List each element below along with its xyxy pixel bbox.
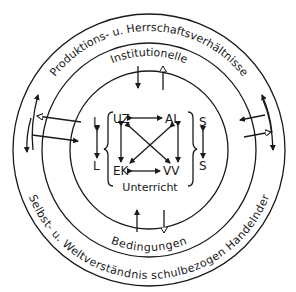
core-label-al: AL	[165, 112, 180, 126]
inner-ring	[70, 71, 228, 229]
middle-ring-top-label: Institutionelle	[108, 46, 189, 66]
core-title-unterricht: Unterricht	[122, 181, 178, 194]
core-label-s-top: S	[199, 115, 207, 129]
core-label-l-bottom: L	[93, 159, 100, 173]
core-label-ek: EK	[113, 164, 130, 178]
core-label-uz: UZ	[113, 112, 130, 126]
outer-ring-bottom-label: Selbst- u. Weltverständnis schulbezogen …	[26, 192, 272, 282]
arrow-right-outward-open	[244, 132, 271, 137]
right-brace	[188, 112, 197, 186]
left-brace	[104, 112, 113, 186]
middle-ring-bottom-label: Bedingungen	[110, 234, 189, 254]
core-label-l-top: L	[93, 115, 100, 129]
arrow-left-curve-down	[27, 118, 31, 152]
middle-ring	[42, 43, 256, 257]
core-label-vv: VV	[163, 164, 180, 178]
arrow-right-inward	[240, 115, 265, 120]
core-label-s-bottom: S	[199, 159, 207, 173]
arrow-left-outward-open	[37, 116, 81, 122]
concentric-circle-diagram: Produktions- u. Herrschaftsverhältnisse …	[0, 0, 296, 292]
arrow-left-curve-up	[32, 95, 38, 150]
